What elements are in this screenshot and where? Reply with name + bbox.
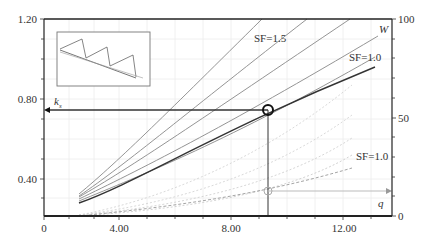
y-left-label-1.20: 1.20 [18, 13, 38, 25]
w-axis-label: W [379, 23, 389, 35]
annotation-sf-1.5: SF=1.5 [254, 32, 287, 44]
annotation-sf-1.0-lower: SF=1.0 [356, 150, 389, 162]
x-label-4: 4.00 [109, 222, 129, 234]
y-left-label-0.40: 0.40 [18, 173, 38, 185]
y-right-label-0: 0 [398, 210, 404, 222]
x-label-12: 12.00 [332, 222, 357, 234]
x-label-0: 0 [41, 222, 47, 234]
ks-label: ks [54, 95, 62, 110]
annotation-sf-1.0-upper: SF=1.0 [349, 51, 382, 63]
arrow-right-icon [386, 188, 392, 194]
x-label-8: 8.00 [221, 222, 241, 234]
y-left-label-0.80: 0.80 [18, 93, 38, 105]
q-axis-label: q [378, 197, 384, 209]
arrow-left-icon [44, 107, 50, 113]
y-right-label-50: 50 [398, 112, 410, 124]
inset-sawtooth-diagram [57, 32, 150, 86]
reading-lines [44, 105, 392, 216]
chart: 1.20 0.80 0.40 100 50 0 0 4.00 8.00 12.0… [0, 0, 429, 243]
w-curves [79, 85, 352, 216]
y-right-label-100: 100 [398, 13, 415, 25]
